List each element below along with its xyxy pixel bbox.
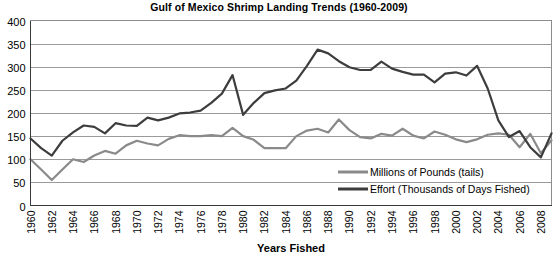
x-axis-tick-label: 1998 [429, 210, 441, 234]
x-axis-tick-label: 2004 [492, 210, 504, 234]
series-lines-group [31, 50, 552, 180]
y-axis-tick-label: 400 [7, 16, 25, 28]
x-axis-title: Years Fished [257, 242, 325, 254]
gridlines-group [31, 45, 552, 183]
x-axis-tick-label: 1964 [67, 210, 79, 234]
x-axis-tick-label: 1986 [301, 210, 313, 234]
x-axis-tick-label: 1968 [110, 210, 122, 234]
x-axis-tick-label: 1966 [88, 210, 100, 234]
legend-label-2: Effort (Thousands of Days Fished) [370, 183, 530, 195]
legend: Millions of Pounds (tails)Effort (Thousa… [338, 166, 530, 195]
y-axis-tick-label: 200 [7, 108, 25, 120]
x-axis-tick-label: 1972 [152, 210, 164, 234]
x-axis-tick-label: 1970 [131, 210, 143, 234]
x-axis-tick-label: 1980 [237, 210, 249, 234]
y-axis-tick-label: 100 [7, 154, 25, 166]
chart-container: Gulf of Mexico Shrimp Landing Trends (19… [0, 0, 558, 266]
x-axis-tick-label: 1976 [195, 210, 207, 234]
y-axis-tick-label: 150 [7, 131, 25, 143]
x-axis-tick-label: 2006 [514, 210, 526, 234]
x-axis-tick-label: 2000 [450, 210, 462, 234]
x-axis-tick-label: 1992 [365, 210, 377, 234]
x-axis-tick-labels: 1960196219641966196819701972197419761978… [25, 210, 547, 234]
x-axis-tick-label: 1960 [25, 210, 37, 234]
x-axis-tick-label: 1974 [173, 210, 185, 234]
x-axis-tick-label: 2002 [471, 210, 483, 234]
x-axis-tick-label: 1984 [280, 210, 292, 234]
x-axis-tick-label: 1988 [322, 210, 334, 234]
x-axis-tick-label: 1978 [216, 210, 228, 234]
x-axis-tick-label: 2008 [535, 210, 547, 234]
x-axis-tick-label: 1962 [46, 210, 58, 234]
legend-label-1: Millions of Pounds (tails) [370, 166, 484, 178]
y-axis-tick-label: 50 [13, 177, 25, 189]
y-axis-tick-labels: 050100150200250300350400 [7, 16, 25, 213]
y-axis-tick-label: 250 [7, 85, 25, 97]
x-axis-tick-label: 1994 [386, 210, 398, 234]
y-axis-tick-label: 300 [7, 62, 25, 74]
x-axis-tick-label: 1990 [343, 210, 355, 234]
x-axis-tick-label: 1982 [258, 210, 270, 234]
y-axis-tick-label: 350 [7, 39, 25, 51]
x-axis-tick-label: 1996 [407, 210, 419, 234]
chart-plot-area: 050100150200250300350400 196019621964196… [0, 0, 558, 266]
